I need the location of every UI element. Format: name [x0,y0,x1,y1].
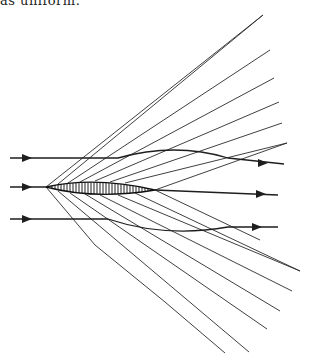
streamline-upper [10,150,284,164]
upper-mach-waves [46,15,287,190]
arrow-icon [22,215,32,223]
mach-wave-diagram [0,0,317,363]
arrow-icon [252,223,262,231]
arrow-icon [22,183,32,191]
arrow-icon [258,159,268,167]
lower-mach-waves [46,187,300,353]
arrow-icon [22,154,32,162]
arrow-icon [256,190,266,198]
airfoil [46,182,155,194]
